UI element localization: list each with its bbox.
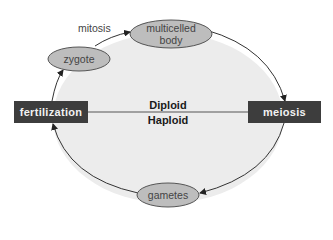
meiosis-box: meiosis	[248, 101, 321, 123]
haploid-label: Haploid	[128, 114, 208, 126]
multicelled-body-label: multicelled body	[130, 22, 212, 46]
zygote-label: zygote	[48, 53, 110, 65]
multicelled-line1: multicelled	[130, 22, 212, 34]
diploid-label: Diploid	[128, 99, 208, 111]
gametes-label: gametes	[137, 189, 199, 201]
mitosis-label: mitosis	[78, 22, 111, 34]
multicelled-line2: body	[130, 34, 212, 46]
fertilization-box: fertilization	[14, 101, 88, 123]
